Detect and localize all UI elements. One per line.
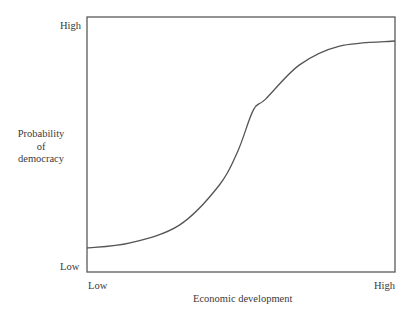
x-high-label: High: [374, 280, 395, 292]
y-axis-title-line: democracy: [4, 153, 78, 166]
y-axis-title-line: of: [4, 141, 78, 154]
s-curve: [87, 41, 395, 248]
y-axis-title-line: Probability: [4, 128, 78, 141]
y-axis-title: Probability of democracy: [4, 128, 78, 166]
y-high-label: High: [60, 20, 81, 32]
x-low-label: Low: [88, 280, 107, 292]
y-low-label: Low: [60, 261, 79, 273]
x-axis-title: Economic development: [193, 293, 292, 305]
